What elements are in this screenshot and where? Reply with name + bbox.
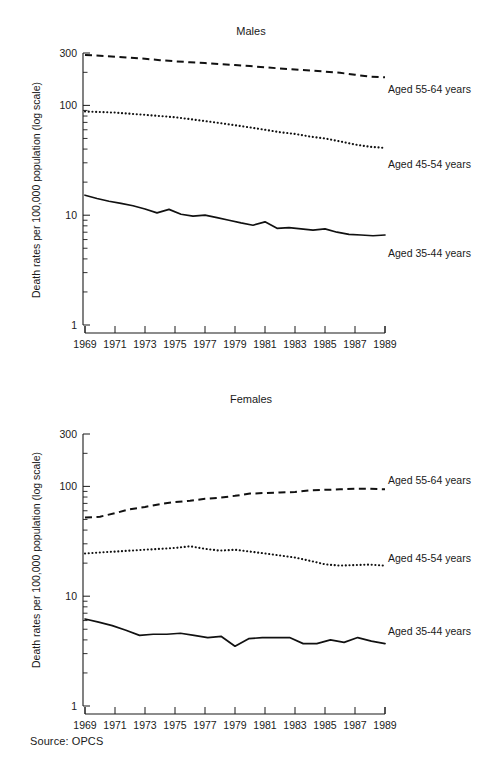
chart-title-females: Females xyxy=(230,393,273,405)
y-tick-label: 10 xyxy=(65,209,77,221)
x-tick-label: 1977 xyxy=(193,719,217,731)
figure-page: Males Death rates per 100,000 population… xyxy=(0,0,502,770)
series-label-males-4554: Aged 45-54 years xyxy=(388,158,471,170)
x-axis-females: 1969197119731975197719791981198319851987… xyxy=(73,707,397,731)
x-axis-males: 1969197119731975197719791981198319851987… xyxy=(73,326,397,350)
x-tick-label: 1987 xyxy=(343,719,367,731)
series-line-dotted xyxy=(85,546,385,565)
x-tick-label: 1983 xyxy=(283,719,307,731)
x-tick-label: 1983 xyxy=(283,338,307,350)
y-axis-label-females: Death rates per 100,000 population (log … xyxy=(30,452,42,668)
x-ticks-males: 1969197119731975197719791981198319851987… xyxy=(73,326,397,350)
series-label-females-3544: Aged 35-44 years xyxy=(388,625,471,637)
x-tick-label: 1979 xyxy=(223,338,247,350)
y-axis-males: 300100101 xyxy=(59,47,90,331)
x-tick-label: 1969 xyxy=(73,338,97,350)
series-group-males xyxy=(85,55,385,236)
chart-males: Males Death rates per 100,000 population… xyxy=(0,0,502,385)
y-ticks-females: 300100101 xyxy=(59,428,90,712)
y-axis-females: 300100101 xyxy=(59,428,90,712)
x-tick-label: 1971 xyxy=(103,719,127,731)
y-tick-label: 10 xyxy=(65,590,77,602)
x-tick-label: 1975 xyxy=(163,719,187,731)
x-tick-label: 1973 xyxy=(133,719,157,731)
y-tick-label: 300 xyxy=(59,47,77,59)
x-tick-label: 1985 xyxy=(313,719,337,731)
series-line-dashed xyxy=(85,489,385,518)
y-axis-label-males: Death rates per 100,000 population (log … xyxy=(30,82,42,298)
y-tick-label: 100 xyxy=(59,480,77,492)
series-label-males-3544: Aged 35-44 years xyxy=(388,247,471,259)
chart-males-svg: Males Death rates per 100,000 population… xyxy=(0,0,502,385)
y-ticks-males: 300100101 xyxy=(59,47,90,331)
x-tick-label: 1973 xyxy=(133,338,157,350)
series-line-solid xyxy=(85,195,385,236)
chart-females: Females Death rates per 100,000 populati… xyxy=(0,385,502,745)
x-tick-label: 1979 xyxy=(223,719,247,731)
series-line-dotted xyxy=(85,111,385,147)
x-tick-label: 1987 xyxy=(343,338,367,350)
x-tick-label: 1981 xyxy=(253,338,277,350)
chart-females-svg: Females Death rates per 100,000 populati… xyxy=(0,385,502,745)
y-tick-label: 100 xyxy=(59,99,77,111)
series-label-males-5564: Aged 55-64 years xyxy=(388,83,471,95)
series-line-dashed xyxy=(85,55,385,77)
x-tick-label: 1977 xyxy=(193,338,217,350)
x-tick-label: 1975 xyxy=(163,338,187,350)
y-tick-label: 1 xyxy=(71,319,77,331)
x-ticks-females: 1969197119731975197719791981198319851987… xyxy=(73,707,397,731)
chart-title-males: Males xyxy=(236,25,266,37)
x-tick-label: 1985 xyxy=(313,338,337,350)
x-tick-label: 1971 xyxy=(103,338,127,350)
x-tick-label: 1989 xyxy=(373,338,397,350)
series-line-solid xyxy=(85,619,385,646)
x-tick-label: 1989 xyxy=(373,719,397,731)
y-tick-label: 300 xyxy=(59,428,77,440)
source-note: Source: OPCS xyxy=(30,735,103,747)
series-label-females-4554: Aged 45-54 years xyxy=(388,552,471,564)
series-group-females xyxy=(85,489,385,646)
x-tick-label: 1981 xyxy=(253,719,277,731)
series-label-females-5564: Aged 55-64 years xyxy=(388,474,471,486)
x-tick-label: 1969 xyxy=(73,719,97,731)
y-tick-label: 1 xyxy=(71,700,77,712)
